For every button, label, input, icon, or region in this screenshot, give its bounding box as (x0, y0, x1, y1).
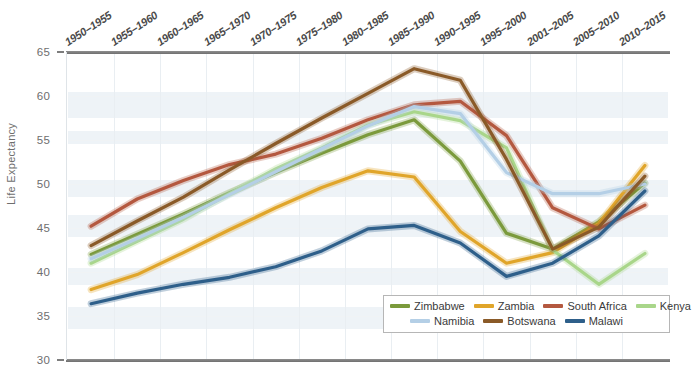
life-expectancy-line-chart: 6560555045403530 Life Expectancy 1950–19… (0, 0, 698, 378)
legend-row-1: ZimbabweZambiaSouth AfricaKenya (390, 300, 663, 312)
legend-swatch-icon (410, 319, 430, 323)
legend-item-kenya[interactable]: Kenya (636, 300, 691, 312)
legend-label: Botswana (507, 315, 555, 327)
legend-item-botswana[interactable]: Botswana (483, 315, 555, 327)
legend-row-2: NamibiaBotswanaMalawi (390, 315, 663, 327)
legend-label: Malawi (589, 315, 623, 327)
legend-label: Zambia (498, 300, 535, 312)
legend-label: Kenya (660, 300, 691, 312)
legend-swatch-icon (565, 319, 585, 323)
legend-swatch-icon (474, 304, 494, 308)
legend-swatch-icon (636, 304, 656, 308)
legend-label: Namibia (434, 315, 474, 327)
legend-item-south-africa[interactable]: South Africa (543, 300, 626, 312)
legend-item-malawi[interactable]: Malawi (565, 315, 623, 327)
legend-label: Zimbabwe (414, 300, 465, 312)
legend-item-zambia[interactable]: Zambia (474, 300, 535, 312)
legend-item-zimbabwe[interactable]: Zimbabwe (390, 300, 465, 312)
legend-swatch-icon (390, 304, 410, 308)
legend-label: South Africa (567, 300, 626, 312)
legend-swatch-icon (543, 304, 563, 308)
legend-swatch-icon (483, 319, 503, 323)
legend-item-namibia[interactable]: Namibia (410, 315, 474, 327)
chart-legend: ZimbabweZambiaSouth AfricaKenya NamibiaB… (383, 295, 670, 333)
